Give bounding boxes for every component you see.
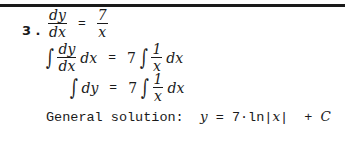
equals-sign: = — [109, 80, 117, 95]
integral-sign-icon: ∫ — [141, 75, 149, 100]
solution-expression: = 7·ln| — [208, 110, 273, 125]
variable-x: x — [272, 108, 280, 124]
numerator: dy — [48, 8, 67, 24]
numerator: 1 — [153, 72, 164, 88]
fraction-dy-dx: dy dx — [48, 8, 67, 39]
solution-tail: | + — [280, 110, 321, 125]
denominator: x — [97, 24, 107, 39]
denominator: dx — [57, 58, 76, 73]
equation-line-1: dy dx = 7 x — [48, 8, 108, 39]
problem-number: 3 . — [22, 23, 41, 38]
fraction-1-x: 1 x — [153, 72, 164, 103]
fraction-1-x: 1 x — [151, 42, 162, 73]
differential: dx — [166, 50, 183, 66]
integral-sign-icon: ∫ — [46, 45, 54, 70]
constant-c: C — [321, 108, 331, 124]
differential-dy: dy — [81, 80, 98, 96]
denominator: dx — [48, 24, 67, 39]
fraction-dy-dx: dy dx — [57, 42, 76, 73]
differential: dx — [80, 50, 97, 66]
equals-sign: = — [108, 50, 116, 65]
numerator: dy — [57, 42, 76, 58]
equation-line-3: ∫ dy = 7 ∫ 1 x dx — [70, 72, 184, 103]
coefficient: 7 — [128, 80, 137, 96]
solution-label: General solution: — [46, 110, 200, 125]
general-solution: General solution: y = 7·ln|x| + C — [46, 108, 331, 125]
integral-sign-icon: ∫ — [70, 75, 78, 100]
coefficient: 7 — [127, 50, 136, 66]
equals-sign: = — [78, 16, 86, 31]
denominator: x — [153, 88, 163, 103]
differential: dx — [167, 80, 184, 96]
numerator: 1 — [151, 42, 162, 58]
equation-line-2: ∫ dy dx dx = 7 ∫ 1 x dx — [46, 42, 183, 73]
numerator: 7 — [97, 8, 108, 24]
variable-y: y — [200, 108, 208, 124]
integral-sign-icon: ∫ — [140, 45, 148, 70]
fraction-7-x: 7 x — [97, 8, 108, 39]
